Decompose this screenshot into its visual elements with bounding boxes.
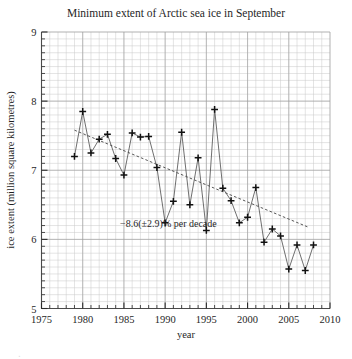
- data-point-marker: [236, 219, 243, 226]
- data-point-marker: [186, 201, 193, 208]
- y-tick-label: 9: [31, 27, 36, 38]
- x-tick-label: 2010: [320, 314, 341, 325]
- data-point-marker: [129, 130, 136, 137]
- data-point-marker: [195, 154, 202, 161]
- x-tick-label: 1995: [196, 314, 217, 325]
- data-point-marker: [285, 266, 292, 273]
- clipped-caption: .: [18, 348, 348, 359]
- trend-annotation-label: −8.6(±2.9)% per decade: [120, 218, 217, 230]
- data-point-markers: [71, 106, 317, 274]
- data-point-marker: [170, 198, 177, 205]
- data-point-marker: [178, 129, 185, 136]
- chart-title: Minimum extent of Arctic sea ice in Sept…: [67, 7, 285, 20]
- y-tick-label: 8: [31, 96, 36, 107]
- x-tick-label: 2005: [278, 314, 299, 325]
- y-tick-label: 7: [31, 165, 36, 176]
- data-point-marker: [104, 131, 111, 138]
- x-tick-label: 1975: [31, 314, 52, 325]
- x-tick-label: 1985: [113, 314, 134, 325]
- x-tick-label: 1980: [72, 314, 93, 325]
- data-point-marker: [244, 214, 251, 221]
- data-point-marker: [121, 172, 128, 179]
- data-point-marker: [294, 242, 301, 249]
- data-point-marker: [261, 239, 268, 246]
- trend-line: [74, 130, 309, 227]
- x-axis-title: year: [177, 329, 196, 340]
- data-point-marker: [310, 242, 317, 249]
- data-point-marker: [219, 185, 226, 192]
- data-point-marker: [79, 108, 86, 115]
- y-axis-tick-labels: 56789: [31, 27, 36, 315]
- x-axis-ticks: [42, 303, 331, 309]
- data-point-marker: [145, 133, 152, 140]
- data-point-marker: [302, 267, 309, 274]
- data-point-marker: [112, 155, 119, 162]
- x-tick-label: 1990: [155, 314, 176, 325]
- x-tick-label: 2000: [237, 314, 258, 325]
- y-tick-label: 6: [31, 234, 36, 245]
- data-point-marker: [71, 153, 78, 160]
- data-point-marker: [252, 184, 259, 191]
- data-point-marker: [211, 106, 218, 113]
- data-point-marker: [88, 150, 95, 157]
- x-axis-tick-labels: 19751980198519901995200020052010: [31, 314, 341, 325]
- y-axis-title: ice extent (million square kilometres): [5, 91, 17, 249]
- data-point-marker: [137, 134, 144, 141]
- data-point-marker: [228, 197, 235, 204]
- chart-annotation: −8.6(±2.9)% per decade: [120, 218, 217, 230]
